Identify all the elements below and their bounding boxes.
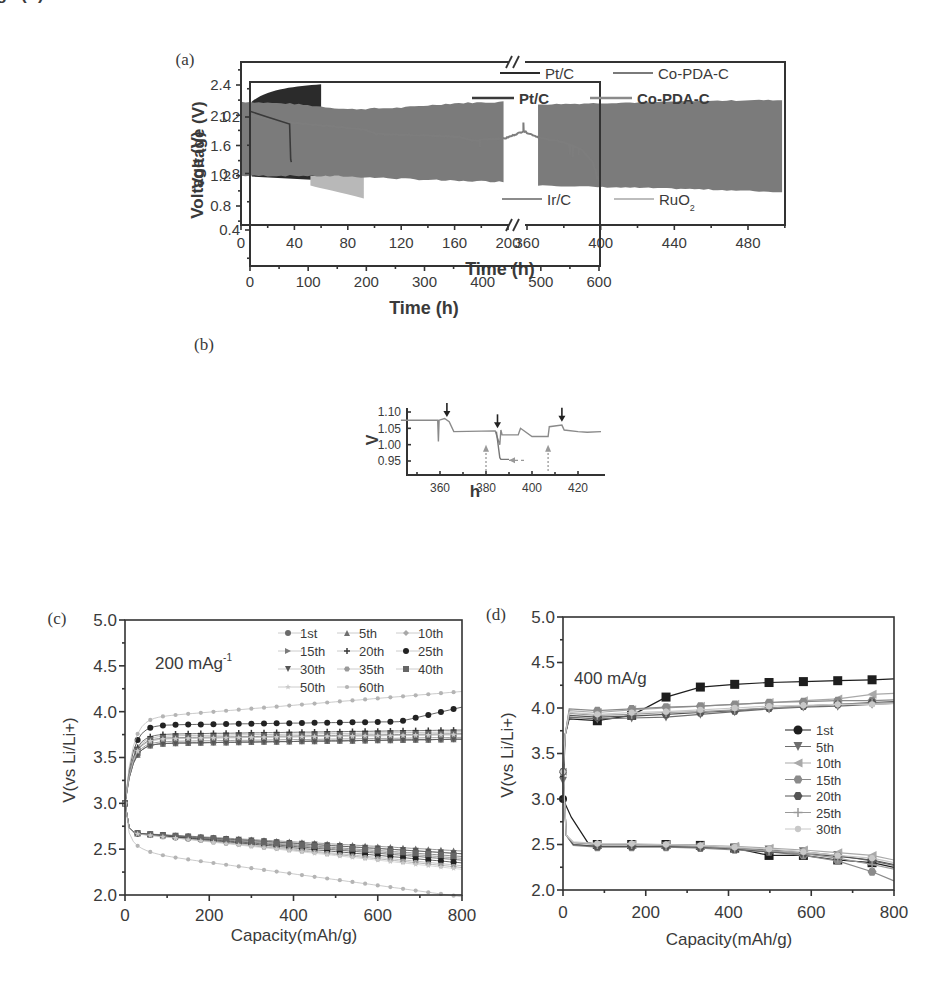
data-marker — [286, 841, 292, 847]
data-marker — [794, 759, 803, 768]
x-tick-label: 400 — [714, 903, 742, 922]
legend-label: 5th — [816, 740, 834, 755]
current-density-annotation: 200 mAg-1 — [155, 652, 232, 673]
data-marker — [403, 666, 409, 672]
data-marker — [345, 685, 349, 689]
legend-label: 20th — [816, 789, 841, 804]
x-tick-label: 40 — [286, 234, 303, 251]
data-marker — [261, 839, 267, 845]
y-axis-title: V(vs Li/Li+) — [60, 717, 79, 803]
data-marker — [210, 721, 216, 727]
series-co-pda-c — [241, 101, 504, 182]
panel-label: (b) — [194, 335, 214, 354]
data-marker — [376, 883, 380, 887]
y-axis-title: Voltage (V) — [188, 131, 207, 219]
data-marker — [173, 713, 177, 717]
legend-label: 1st — [816, 723, 834, 738]
data-marker — [325, 876, 329, 880]
series-40th — [122, 731, 462, 859]
y-tick-label: 0.4 — [219, 221, 240, 238]
data-marker — [223, 721, 229, 727]
data-marker — [794, 776, 803, 784]
data-marker — [794, 808, 803, 817]
x-tick-label: 300 — [412, 273, 437, 290]
data-marker — [800, 702, 806, 708]
legend-label: 10th — [816, 756, 841, 771]
data-marker — [376, 696, 380, 700]
y-tick-label: 1.05 — [378, 422, 402, 436]
data-marker — [199, 859, 203, 863]
data-marker — [275, 870, 279, 874]
y-tick-label: 3.5 — [93, 748, 117, 767]
x-tick-label: 800 — [880, 903, 908, 922]
x-tick-label: 160 — [442, 234, 467, 251]
data-marker — [732, 705, 738, 711]
data-marker — [426, 692, 430, 696]
data-marker — [148, 718, 152, 722]
data-marker — [799, 677, 808, 686]
x-axis-title: Capacity(mAh/g) — [231, 926, 358, 945]
series-20th — [559, 699, 894, 865]
inset-axes — [407, 408, 605, 475]
legend-label: 25th — [816, 806, 841, 821]
data-marker — [324, 844, 330, 850]
data-marker — [338, 878, 342, 882]
data-marker — [337, 719, 343, 725]
data-marker — [173, 855, 177, 859]
panel-c-capacity-200-chart: (c)2.02.53.03.54.04.55.00200400600800V(v… — [48, 609, 477, 945]
data-marker — [413, 850, 419, 856]
data-marker — [835, 701, 841, 707]
data-marker — [287, 871, 291, 875]
data-marker — [325, 700, 329, 704]
data-marker — [363, 882, 367, 886]
panel-label: (d) — [486, 605, 506, 624]
y-tick-label: 0.8 — [219, 165, 240, 182]
legend: 1st5th10th15th20th25th30th35th40th50th60… — [278, 626, 443, 695]
data-marker — [237, 864, 241, 868]
y-tick-label: 2.0 — [93, 886, 117, 905]
data-marker — [730, 680, 739, 689]
x-tick-label: 200 — [354, 273, 379, 290]
data-marker — [198, 721, 204, 727]
data-marker — [344, 648, 350, 654]
data-marker — [868, 868, 877, 876]
x-tick-label: 0 — [246, 273, 254, 290]
data-marker — [136, 732, 140, 736]
data-marker — [324, 720, 330, 726]
x-tick-label: 0 — [558, 903, 567, 922]
inset-series-pt-c — [496, 432, 509, 460]
legend-label: 35th — [359, 662, 384, 677]
data-marker — [629, 709, 635, 715]
y-tick-label: 3.5 — [531, 744, 555, 763]
data-marker — [211, 861, 215, 865]
legend-label: Co-PDA-C — [637, 90, 710, 107]
data-marker — [299, 842, 305, 848]
data-marker — [400, 718, 406, 724]
y-tick-label: 0.95 — [378, 454, 402, 468]
y-tick-label: 5.0 — [531, 608, 555, 627]
data-marker — [312, 843, 318, 849]
data-marker — [794, 726, 803, 735]
x-tick-label: 360 — [430, 481, 450, 495]
data-marker — [451, 853, 457, 859]
x-tick-label: 600 — [364, 906, 392, 925]
y-tick-label: 1.6 — [210, 137, 231, 154]
data-marker — [161, 853, 165, 857]
data-marker — [262, 706, 266, 710]
arrow-down-icon — [558, 416, 565, 422]
data-marker — [451, 690, 455, 694]
y-tick-label: 4.5 — [93, 657, 117, 676]
data-marker — [388, 695, 392, 699]
data-marker — [300, 873, 304, 877]
arrow-up-dashed-icon — [483, 445, 489, 452]
data-marker — [186, 712, 190, 716]
data-marker — [287, 703, 291, 707]
data-marker — [425, 851, 431, 857]
data-marker — [337, 845, 343, 851]
x-tick-label: 440 — [662, 234, 687, 251]
data-marker — [765, 678, 774, 687]
data-marker — [869, 855, 875, 861]
data-marker — [795, 826, 801, 832]
data-marker — [211, 710, 215, 714]
data-marker — [362, 719, 368, 725]
